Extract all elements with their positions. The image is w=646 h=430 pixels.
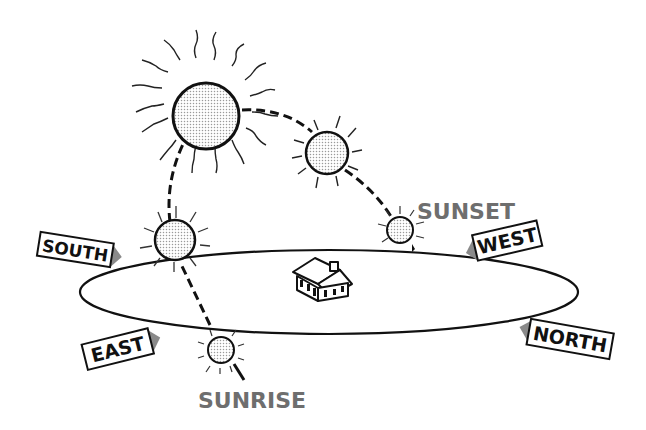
sunrise-sun-icon <box>198 330 244 380</box>
afternoon-sun-icon <box>292 116 362 188</box>
sunrise-label: SUNRISE <box>198 388 306 413</box>
sun-path-diagram: SOUTH WEST EAST NORTH SUNSET SUNRISE <box>0 0 646 430</box>
east-sign: EAST <box>82 326 164 370</box>
west-sign: WEST <box>462 220 542 262</box>
south-sign: SOUTH <box>37 232 124 269</box>
north-sign: NORTH <box>517 317 614 359</box>
house-icon <box>293 258 352 301</box>
sunset-label: SUNSET <box>417 199 515 224</box>
noon-sun-icon <box>132 30 278 173</box>
